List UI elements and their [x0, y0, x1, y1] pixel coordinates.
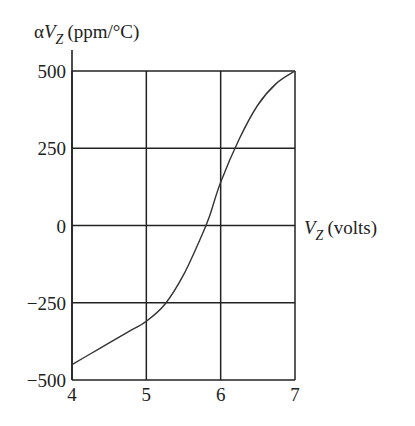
data-series-line	[72, 71, 295, 365]
y-tick-label: 0	[57, 216, 67, 237]
x-tick-label: 6	[216, 384, 226, 405]
x-tick-label: 5	[142, 384, 152, 405]
y-axis-label: αVZ(ppm/°C)	[34, 21, 139, 47]
y-axis-ticks: 5002500−250−500	[27, 61, 66, 391]
x-tick-label: 7	[290, 384, 300, 405]
y-tick-label: −500	[27, 370, 66, 391]
y-tick-label: 500	[38, 61, 67, 82]
x-axis-label: VZ(volts)	[304, 217, 377, 243]
y-tick-label: 250	[38, 138, 67, 159]
x-tick-label: 4	[67, 384, 77, 405]
chart-canvas: 5002500−250−500 4567 αVZ(ppm/°C) VZ(volt…	[0, 0, 415, 426]
x-axis-ticks: 4567	[67, 384, 300, 405]
y-tick-label: −250	[27, 293, 66, 314]
